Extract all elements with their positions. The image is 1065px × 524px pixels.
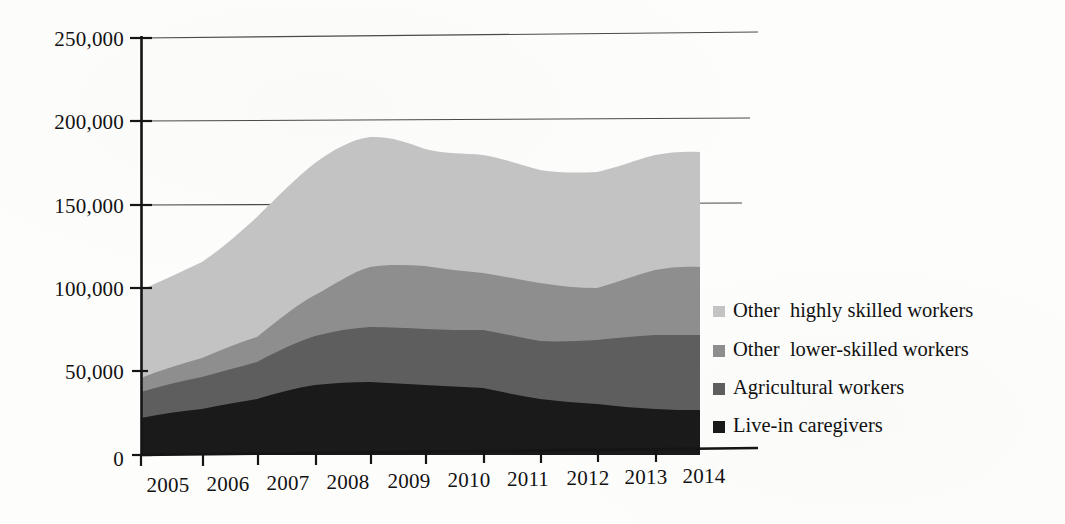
legend-item-agricultural-workers[interactable]: Agricultural workers <box>713 376 904 399</box>
x-tick-label-2011: 2011 <box>507 467 549 491</box>
y-tick-labels: 250,000 200,000 150,000 100,000 50,000 0 <box>54 27 124 471</box>
chart-canvas: 250,000 200,000 150,000 100,000 50,000 0… <box>0 0 1065 524</box>
y-tick-label-250000: 250,000 <box>54 27 124 51</box>
legend-swatch-icon <box>713 383 725 395</box>
legend-swatch-icon <box>713 421 725 433</box>
chart-legend: Other highly skilled workers Other lower… <box>713 299 973 437</box>
legend-item-label: Other lower-skilled workers <box>733 338 969 360</box>
legend-item-label: Agricultural workers <box>733 376 904 399</box>
gridline-200000 <box>141 118 750 121</box>
y-tick-label-200000: 200,000 <box>54 110 124 134</box>
x-tick-label-2013: 2013 <box>625 465 668 489</box>
x-tick-label-2008: 2008 <box>327 470 370 494</box>
legend-item-label: Other highly skilled workers <box>733 299 973 322</box>
y-tick-label-50000: 50,000 <box>65 360 124 384</box>
area-series-group <box>141 137 700 455</box>
gridline-250000 <box>141 32 758 38</box>
y-tick-label-150000: 150,000 <box>54 194 124 218</box>
legend-item-live-in-caregivers[interactable]: Live-in caregivers <box>713 414 883 437</box>
legend-item-other-highly-skilled-workers[interactable]: Other highly skilled workers <box>713 299 973 322</box>
y-tick-label-100000: 100,000 <box>54 277 124 301</box>
x-tick-label-2005: 2005 <box>147 473 190 497</box>
x-tick-label-2009: 2009 <box>388 469 431 493</box>
x-tick-label-2007: 2007 <box>267 471 310 495</box>
legend-swatch-icon <box>713 345 725 357</box>
legend-item-other-lower-skilled-workers[interactable]: Other lower-skilled workers <box>713 338 969 360</box>
legend-swatch-icon <box>713 306 725 317</box>
x-tick-label-2012: 2012 <box>567 466 610 490</box>
stacked-area-chart-figure: 250,000 200,000 150,000 100,000 50,000 0… <box>0 0 1065 524</box>
y-tick-label-0: 0 <box>113 447 124 471</box>
x-tick-labels: 2005 2006 2007 2008 2009 2010 2011 2012 … <box>147 464 726 497</box>
x-tick-label-2014: 2014 <box>683 464 726 488</box>
x-tick-label-2006: 2006 <box>207 472 250 496</box>
legend-item-label: Live-in caregivers <box>733 414 883 437</box>
x-tick-label-2010: 2010 <box>448 468 491 492</box>
